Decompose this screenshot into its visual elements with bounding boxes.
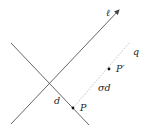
label-point-p: P — [79, 102, 87, 113]
label-point-p-prime: P′ — [115, 63, 125, 74]
line-l — [11, 10, 119, 124]
label-line-q: q — [133, 46, 139, 57]
label-d: d — [54, 95, 60, 106]
crossing-line — [11, 43, 89, 125]
point-p-prime — [108, 68, 111, 71]
line-q — [73, 42, 130, 108]
point-p — [72, 107, 75, 110]
label-sigma-d: σd — [98, 82, 111, 93]
reflection-diagram: ℓ q P′ σd d P — [0, 0, 150, 132]
label-line-l: ℓ — [106, 7, 110, 18]
